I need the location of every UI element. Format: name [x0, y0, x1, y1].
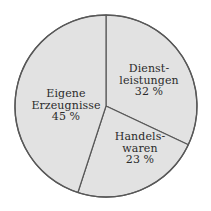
pie-label-line-1: Dienst-	[113, 63, 185, 75]
pie-label-line-1: Eigene	[22, 88, 110, 100]
pie-label-value: 45 %	[22, 111, 110, 123]
pie-label-handelswaren: Handels- waren 23 %	[104, 131, 176, 166]
pie-label-value: 32 %	[113, 86, 185, 98]
pie-label-value: 23 %	[104, 154, 176, 166]
pie-label-dienstleistungen: Dienst- leistungen 32 %	[113, 63, 185, 98]
pie-label-line-1: Handels-	[104, 131, 176, 143]
pie-label-eigene-erzeugnisse: Eigene Erzeugnisse 45 %	[22, 88, 110, 123]
pie-chart-figure: Dienst- leistungen 32 % Eigene Erzeugnis…	[0, 0, 211, 211]
